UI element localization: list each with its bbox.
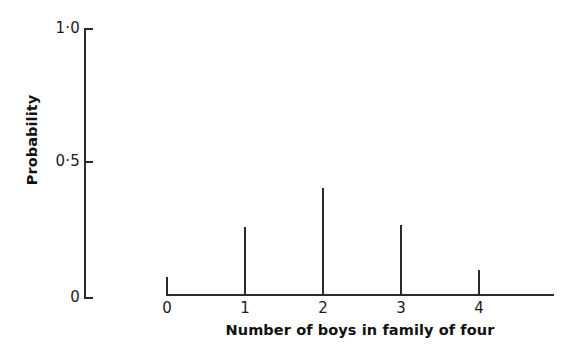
- x-axis-title: Number of boys in family of four: [166, 322, 554, 338]
- x-axis-tick-label-4: 4: [459, 299, 499, 317]
- spike-3: [400, 225, 402, 294]
- spike-2: [322, 188, 324, 294]
- plot-area: 01234: [0, 0, 576, 357]
- probability-spike-chart: 1·0 0·5 0 Probability 01234 Number of bo…: [0, 0, 576, 357]
- spike-4: [478, 270, 480, 294]
- x-axis-tick-label-0: 0: [147, 299, 187, 317]
- x-axis-tick-label-2: 2: [303, 299, 343, 317]
- spike-1: [244, 227, 246, 294]
- x-axis-tick-label-3: 3: [381, 299, 421, 317]
- x-axis-tick-label-1: 1: [225, 299, 265, 317]
